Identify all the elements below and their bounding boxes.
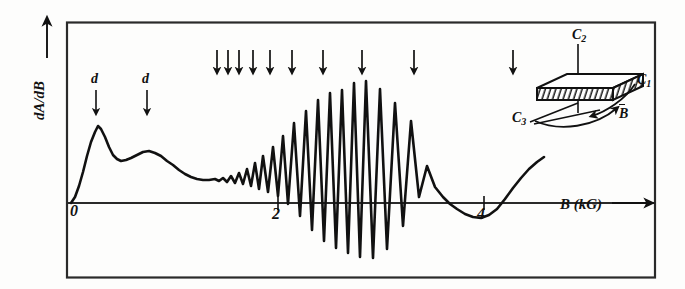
- inset-label-c3-sub: 3: [521, 116, 526, 127]
- inset-label-c2-base: C: [572, 27, 581, 42]
- inset-label-b-text: B: [619, 106, 628, 121]
- x-tick-label-2: 2: [272, 205, 280, 223]
- down-arrow-markers: [217, 50, 513, 72]
- inset-label-c1: C1: [637, 72, 651, 89]
- d-marker-arrows: [96, 90, 147, 113]
- figure-root: dA/dB B (kG) 0 2 4 d d C1 C2 C3 B: [0, 0, 685, 289]
- inset-slab-front-hatched: [537, 88, 613, 100]
- inset-label-c2-sub: 2: [581, 33, 586, 44]
- signal-curve: [71, 81, 544, 258]
- x-tick-label-4: 4: [477, 205, 485, 223]
- inset-label-c3-base: C: [512, 110, 521, 125]
- inset-label-c1-sub: 1: [646, 78, 651, 89]
- inset-label-c3: C3: [512, 110, 526, 127]
- d-marker-label-1: d: [91, 71, 98, 87]
- inset-label-b-vector: B: [619, 106, 628, 122]
- inset-label-c1-base: C: [637, 72, 646, 87]
- y-axis-label: dA/dB: [31, 56, 48, 146]
- inset-label-c2: C2: [572, 27, 586, 44]
- x-axis-label: B (kG): [560, 196, 602, 213]
- x-tick-label-0: 0: [70, 202, 78, 220]
- d-marker-label-2: d: [142, 71, 149, 87]
